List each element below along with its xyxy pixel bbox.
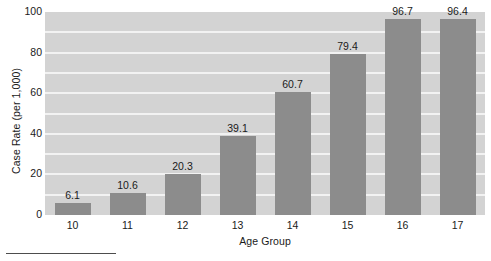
plot-area: [45, 12, 485, 215]
bar: [440, 19, 476, 215]
y-axis-tick-label: 20: [14, 168, 42, 179]
x-axis-tick-labels: 1011121314151617: [45, 219, 485, 233]
x-axis-tick-label: 17: [430, 219, 485, 232]
bar: [385, 19, 421, 215]
y-axis-tick-label: 100: [14, 6, 42, 17]
bar-chart-figure: Case Rate (per 1,000) 020406080100 6.110…: [0, 0, 491, 261]
y-axis-tick-label: 0: [14, 209, 42, 220]
bar: [275, 92, 311, 215]
bar: [330, 54, 366, 215]
bar: [55, 203, 91, 215]
y-axis-tick-label: 80: [14, 47, 42, 58]
x-axis-tick-label: 10: [45, 219, 100, 232]
x-axis-tick-label: 14: [265, 219, 320, 232]
x-axis-tick-label: 13: [210, 219, 265, 232]
footnote-rule: [6, 253, 116, 254]
x-axis-tick-label: 12: [155, 219, 210, 232]
x-axis-title: Age Group: [45, 235, 485, 247]
bar: [165, 174, 201, 215]
y-axis-tick-label: 40: [14, 128, 42, 139]
x-axis-tick-label: 11: [100, 219, 155, 232]
bar: [220, 136, 256, 215]
bar: [110, 193, 146, 215]
bars-layer: [45, 12, 485, 215]
y-axis-tick-labels: 020406080100: [12, 0, 42, 261]
x-axis-tick-label: 15: [320, 219, 375, 232]
x-axis-tick-label: 16: [375, 219, 430, 232]
y-axis-tick-label: 60: [14, 87, 42, 98]
